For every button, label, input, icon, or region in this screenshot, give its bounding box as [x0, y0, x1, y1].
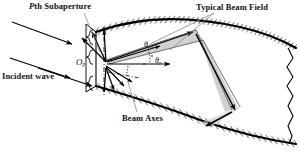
label-origin-op: Op — [76, 58, 85, 67]
subaperture-bracket-middle — [86, 50, 93, 64]
label-theta-pm: θpm — [144, 41, 154, 50]
label-origin-sub: p — [83, 61, 86, 67]
angle-tick-dots — [143, 55, 153, 65]
label-incident-wave: Incident wave — [2, 72, 54, 81]
label-theta-p-sub: p — [159, 60, 161, 65]
label-theta-p: θp — [155, 57, 161, 66]
left-shell-edges — [86, 24, 96, 92]
label-typical-beam-field: Typical Beam Field — [196, 3, 268, 12]
label-pth-subaperture-text: th Subaperture — [34, 1, 91, 11]
figure-canvas: Pth Subaperture Typical Beam Field Incid… — [0, 0, 299, 153]
label-theta-pm-sub: pm — [148, 44, 154, 49]
break-line-right — [287, 48, 293, 144]
label-beam-axes: Beam Axes — [122, 114, 163, 123]
label-pth-subaperture: Pth Subaperture — [29, 2, 91, 11]
